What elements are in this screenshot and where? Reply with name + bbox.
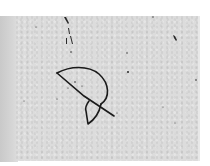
speck xyxy=(56,98,57,99)
speck-scratch-top xyxy=(64,17,69,24)
speck-scratch-mid xyxy=(66,28,73,44)
speck xyxy=(35,26,36,27)
speck xyxy=(67,87,68,88)
speck xyxy=(163,107,164,108)
speck xyxy=(70,51,72,53)
speck xyxy=(175,123,176,124)
speck xyxy=(152,16,153,17)
speck xyxy=(81,85,82,86)
speck xyxy=(126,52,127,53)
speck xyxy=(195,79,197,81)
speck-blot-right xyxy=(173,35,177,41)
speck xyxy=(127,71,129,73)
drawing xyxy=(0,0,210,166)
speck xyxy=(74,81,76,83)
speck xyxy=(24,101,25,102)
speck xyxy=(117,113,118,114)
hook-glyph xyxy=(86,101,101,124)
scan-speckles xyxy=(24,16,197,123)
